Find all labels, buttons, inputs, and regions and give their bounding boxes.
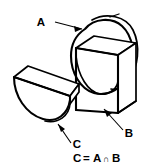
label-a-group: A [37, 16, 82, 32]
label-c-text: C [73, 138, 81, 150]
caption-intersection-operator: ∩ [103, 154, 109, 164]
label-a-text: A [37, 16, 45, 28]
label-c-group: C [58, 124, 81, 150]
caption-operand-left: A [93, 152, 102, 164]
block-solid-b [76, 36, 136, 113]
caption-operand-right: B [112, 152, 121, 164]
caption-equals: = [83, 152, 90, 164]
result-solid-c [14, 66, 79, 122]
label-b-text: B [125, 127, 133, 139]
caption-group: C = A ∩ B [73, 152, 121, 164]
caption-lhs: C [73, 152, 82, 164]
block-front-bottom-edge [76, 110, 118, 113]
label-c-arrowhead [58, 124, 65, 132]
intersection-diagram: A B C C = A ∩ B [0, 0, 152, 166]
figure-container: A B C C = A ∩ B [0, 0, 152, 166]
